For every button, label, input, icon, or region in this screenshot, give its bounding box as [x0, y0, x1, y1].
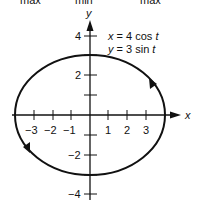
x-tick-label-1: 1: [105, 124, 111, 136]
x-tick-label-neg1: −1: [63, 124, 76, 136]
y-tick-label-neg4: −4: [68, 188, 81, 200]
parametric-ellipse-chart: max min max y x −3 −2 −1 1 2 3 4 2 −2 −4: [0, 0, 198, 208]
top-fragment-min: min: [75, 0, 93, 6]
x-axis-label: x: [184, 109, 191, 121]
y-axis-arrow-icon: [87, 20, 94, 31]
x-tick-label-3: 3: [143, 124, 149, 136]
equation-y: y = 3 sin t: [107, 43, 156, 55]
x-tick-label-2: 2: [124, 124, 130, 136]
y-axis-label: y: [85, 7, 93, 19]
x-tick-label-neg2: −2: [44, 124, 57, 136]
y-tick-label-4: 4: [75, 30, 81, 42]
x-tick-label-neg3: −3: [25, 124, 38, 136]
top-fragment-max-2: max: [140, 0, 161, 6]
y-tick-label-2: 2: [75, 69, 81, 81]
y-tick-label-neg2: −2: [68, 149, 81, 161]
x-axis-arrow-icon: [170, 112, 181, 119]
top-fragment-max: max: [20, 0, 41, 6]
equation-x: x = 4 cos t: [107, 30, 159, 42]
